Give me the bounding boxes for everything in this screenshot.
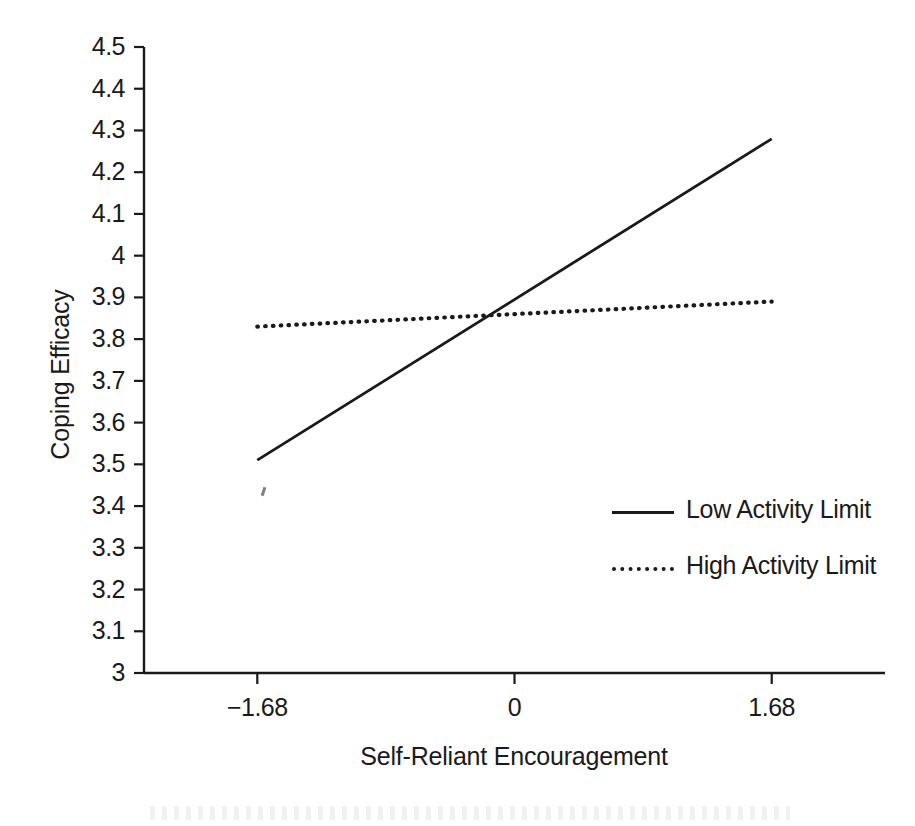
x-tick-label: 1.68 [702, 695, 842, 720]
dotted-line-icon [612, 567, 674, 575]
legend-label: Low Activity Limit [686, 495, 871, 524]
y-tick-label: 4.3 [55, 117, 125, 142]
y-tick-label: 4.5 [55, 34, 125, 59]
x-tick-label: 0 [445, 695, 585, 720]
legend-item: Low Activity Limit [612, 487, 902, 543]
scan-artifact-caption-edge [150, 806, 790, 820]
y-tick-label: 4.1 [55, 201, 125, 226]
y-axis-title: Coping Efficacy [46, 235, 75, 515]
legend-label: High Activity Limit [686, 551, 876, 580]
y-tick-label: 3.2 [55, 577, 125, 602]
x-axis-title: Self-Reliant Encouragement [264, 742, 764, 771]
y-tick-label: 3 [55, 660, 125, 685]
y-tick-label: 4.2 [55, 159, 125, 184]
y-tick-label: 3.1 [55, 618, 125, 643]
y-tick-label: 3.3 [55, 535, 125, 560]
figure-container: 33.13.23.33.43.53.63.73.83.944.14.24.34.… [0, 0, 915, 826]
x-tick-label: −1.68 [187, 695, 327, 720]
y-tick-label: 4.4 [55, 76, 125, 101]
series-line-2 [257, 302, 771, 327]
series-line-1 [257, 139, 771, 460]
legend-item: High Activity Limit [612, 543, 902, 599]
chart-legend: Low Activity LimitHigh Activity Limit [612, 487, 902, 599]
solid-line-icon [612, 511, 674, 518]
